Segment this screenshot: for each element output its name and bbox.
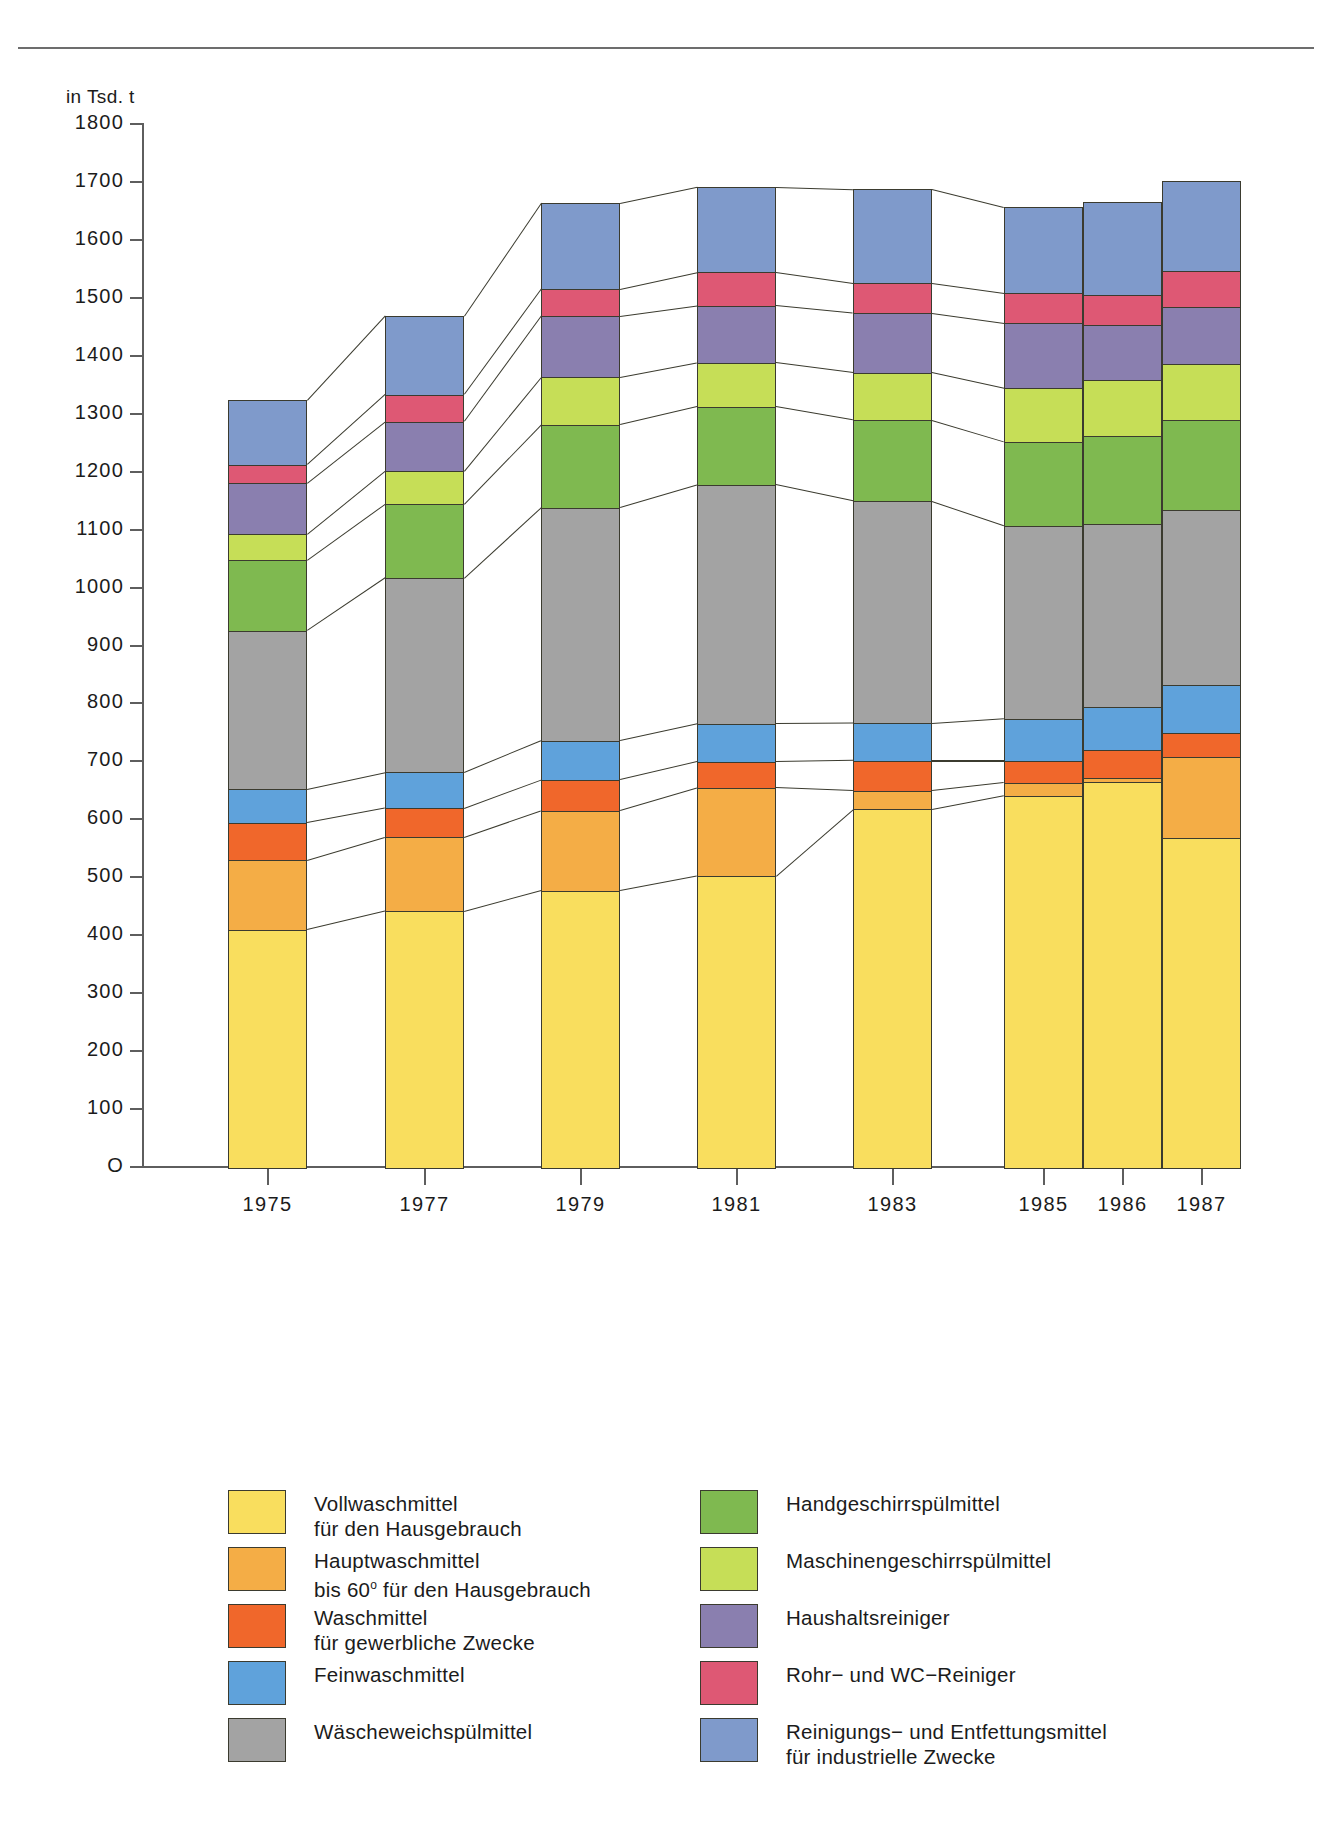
bar-segment xyxy=(385,772,464,810)
segment-connector-line xyxy=(620,761,697,780)
y-axis-tick xyxy=(130,181,144,183)
x-axis-tick xyxy=(424,1168,426,1185)
segment-connector-line xyxy=(464,424,542,504)
y-axis-tick-value: 800 xyxy=(87,690,124,713)
legend-item-label: Maschinengeschirrspülmittel xyxy=(786,1547,1051,1573)
y-axis-tick xyxy=(130,876,144,878)
legend-item-label: Haushaltsreiniger xyxy=(786,1604,950,1630)
bar-1981 xyxy=(697,187,776,1167)
bar-segment xyxy=(1162,271,1241,309)
legend-item[interactable]: Maschinengeschirrspülmittel xyxy=(700,1547,1051,1591)
x-axis-tick-label: 1986 xyxy=(1097,1193,1147,1216)
y-axis-tick xyxy=(130,297,144,299)
segment-connector-line xyxy=(464,779,541,809)
bar-1975 xyxy=(228,400,307,1167)
y-axis-tick-value: 300 xyxy=(87,980,124,1003)
x-axis-tick-label: 1979 xyxy=(555,1193,605,1216)
bar-segment xyxy=(1004,718,1083,762)
legend-color-swatch xyxy=(228,1490,286,1534)
legend-item[interactable]: Haushaltsreiniger xyxy=(700,1604,950,1648)
legend-color-swatch xyxy=(228,1547,286,1591)
y-axis-tick-value: 1400 xyxy=(75,343,124,366)
bar-segment xyxy=(853,760,932,792)
y-axis-tick-value: 900 xyxy=(87,633,124,656)
segment-connector-line xyxy=(932,420,1004,443)
bar-segment xyxy=(853,723,932,762)
y-axis-tick-value: 1700 xyxy=(75,169,124,192)
bar-segment xyxy=(853,420,932,503)
bar-segment xyxy=(1004,441,1083,527)
segment-connector-line xyxy=(620,272,697,290)
legend-item[interactable]: Feinwaschmittel xyxy=(228,1661,465,1705)
bar-1983 xyxy=(853,189,932,1167)
bar-segment xyxy=(1004,760,1083,784)
legend-item[interactable]: Reinigungs− und Entfettungsmittel für in… xyxy=(700,1718,1107,1769)
bar-segment xyxy=(697,723,776,763)
x-axis-tick-label: 1983 xyxy=(867,1193,917,1216)
bar-segment xyxy=(541,377,620,426)
legend-item-label: Handgeschirrspülmittel xyxy=(786,1490,1000,1516)
segment-connector-line xyxy=(776,305,853,314)
legend-item[interactable]: Rohr− und WC−Reiniger xyxy=(700,1661,1016,1705)
y-axis-tick xyxy=(130,992,144,994)
segment-connector-line xyxy=(307,772,385,790)
bar-segment xyxy=(853,283,932,315)
x-axis-tick xyxy=(1122,1168,1124,1185)
segment-connector-line xyxy=(932,283,1004,294)
bar-segment xyxy=(1162,757,1241,840)
bar-segment xyxy=(1004,525,1083,720)
bar-1987 xyxy=(1162,181,1241,1167)
segment-connector-line xyxy=(620,787,697,811)
bar-segment xyxy=(1162,838,1241,1169)
y-axis-tick-value: 1600 xyxy=(75,227,124,250)
bar-segment xyxy=(541,424,620,508)
segment-connector-line xyxy=(307,808,385,824)
bar-segment xyxy=(853,189,932,284)
y-axis-tick-value: 1000 xyxy=(75,575,124,598)
bar-segment xyxy=(385,470,464,505)
bar-segment xyxy=(228,400,307,465)
legend-color-swatch xyxy=(700,1661,758,1705)
legend-item[interactable]: Handgeschirrspülmittel xyxy=(700,1490,1000,1534)
bar-segment xyxy=(1162,685,1241,734)
legend-color-swatch xyxy=(228,1604,286,1648)
segment-connector-line xyxy=(776,484,853,502)
legend-color-swatch xyxy=(700,1547,758,1591)
legend-item-label: Wäscheweichspülmittel xyxy=(314,1718,532,1744)
legend-item[interactable]: Vollwaschmittel für den Hausgebrauch xyxy=(228,1490,522,1541)
segment-connector-line xyxy=(776,406,853,421)
bar-segment xyxy=(228,822,307,861)
legend-item-label: Waschmittel für gewerbliche Zwecke xyxy=(314,1604,535,1655)
segment-connector-line xyxy=(620,876,697,892)
y-axis-tick xyxy=(130,1166,144,1168)
y-axis-tick xyxy=(130,239,144,241)
segment-connector-line xyxy=(464,810,541,838)
y-axis-tick-value: O xyxy=(107,1154,124,1177)
bar-segment xyxy=(697,406,776,486)
legend-item[interactable]: Waschmittel für gewerbliche Zwecke xyxy=(228,1604,535,1655)
bar-segment xyxy=(385,808,464,839)
legend-color-swatch xyxy=(700,1718,758,1762)
bar-1985 xyxy=(1004,207,1083,1167)
bar-segment xyxy=(541,507,620,742)
segment-connector-line xyxy=(620,305,697,317)
bar-segment xyxy=(1004,207,1083,294)
bar-segment xyxy=(1162,509,1241,686)
y-axis-unit-label: in Tsd. t xyxy=(66,86,135,108)
segment-connector-line xyxy=(620,406,697,425)
bar-segment xyxy=(697,305,776,363)
legend-item[interactable]: Hauptwaschmittelbis 60o für den Hausgebr… xyxy=(228,1547,591,1602)
y-axis-tick xyxy=(130,123,144,125)
bar-1977 xyxy=(385,316,464,1167)
y-axis-tick xyxy=(130,471,144,473)
y-axis-tick-value: 1300 xyxy=(75,401,124,424)
bar-segment xyxy=(1162,732,1241,758)
bar-segment xyxy=(385,911,464,1169)
legend-item[interactable]: Wäscheweichspülmittel xyxy=(228,1718,532,1762)
bar-segment xyxy=(228,929,307,1168)
bar-segment xyxy=(228,464,307,484)
segment-connector-line xyxy=(932,718,1004,724)
legend-item-label: Vollwaschmittel für den Hausgebrauch xyxy=(314,1490,522,1541)
bar-segment xyxy=(1083,380,1162,438)
segment-connector-line xyxy=(620,723,697,741)
